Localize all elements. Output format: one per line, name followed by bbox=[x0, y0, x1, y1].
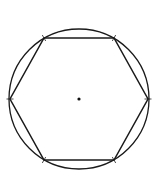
center-point bbox=[77, 97, 80, 100]
hexagon-in-circle-diagram bbox=[0, 0, 160, 175]
